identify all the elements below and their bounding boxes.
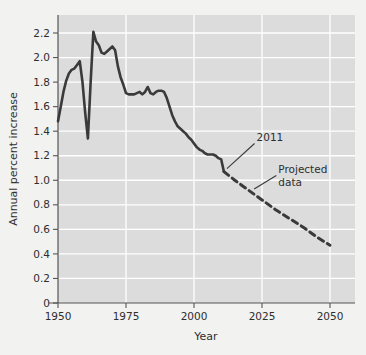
x-tick-label: 2050 [317, 310, 344, 322]
annotation-label: data [278, 176, 302, 188]
plot-area-background [58, 15, 355, 303]
y-tick-label: 2.2 [33, 27, 50, 39]
x-tick-label: 1950 [45, 310, 72, 322]
x-tick-label: 2000 [181, 310, 208, 322]
y-tick-label: 1.2 [33, 149, 50, 161]
y-axis-title: Annual percent increase [7, 92, 20, 226]
y-tick-label: 2.0 [33, 51, 50, 63]
y-tick-label: 1.0 [33, 174, 50, 186]
annotation-label: 2011 [257, 131, 284, 143]
annotation-label: Projected [278, 163, 327, 175]
y-tick-label: 1.4 [33, 125, 50, 137]
y-tick-label: 1.8 [33, 76, 50, 88]
y-tick-label: 0.2 [33, 272, 50, 284]
y-tick-label: 0.8 [33, 198, 50, 210]
y-tick-label: 1.6 [33, 100, 50, 112]
figure-container: 00.20.40.60.81.01.21.41.61.82.02.2 19501… [0, 0, 366, 355]
y-tick-label: 0.4 [33, 248, 50, 260]
x-tick-label: 1975 [113, 310, 140, 322]
x-tick-label: 2025 [249, 310, 276, 322]
x-axis-title: Year [193, 330, 218, 343]
population-growth-line-chart: 00.20.40.60.81.01.21.41.61.82.02.2 19501… [0, 0, 366, 355]
y-tick-label: 0.6 [33, 223, 50, 235]
